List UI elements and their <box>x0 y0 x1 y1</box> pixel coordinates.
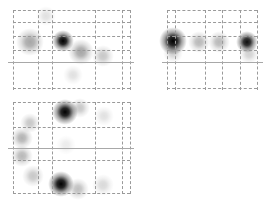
spot <box>16 28 45 57</box>
grid-line-horizontal <box>13 50 130 51</box>
grid-line-horizontal <box>13 10 130 11</box>
grid-line-horizontal <box>167 36 257 37</box>
divider-line <box>8 62 134 63</box>
divider-line <box>8 148 134 149</box>
grid-line-horizontal <box>13 88 130 89</box>
spot <box>68 39 94 65</box>
spot <box>22 165 44 187</box>
grid-line-horizontal <box>167 22 257 23</box>
grid-line-horizontal <box>13 22 130 23</box>
grid-line-vertical <box>130 10 131 90</box>
grid-line-horizontal <box>167 50 257 51</box>
grid-line-horizontal <box>13 160 130 161</box>
spot <box>67 178 89 200</box>
spot <box>56 135 75 154</box>
grid-line-vertical <box>257 10 258 90</box>
panel-c <box>8 100 134 196</box>
panel-b <box>162 8 263 92</box>
grid-line-horizontal <box>13 193 130 194</box>
grid-line-horizontal <box>13 102 130 103</box>
grid-line-horizontal <box>167 88 257 89</box>
grid-line-horizontal <box>167 10 257 11</box>
divider-line <box>162 62 263 63</box>
spot <box>239 44 258 63</box>
panel-a <box>8 8 134 92</box>
spot <box>63 65 82 84</box>
grid-line-horizontal <box>13 36 130 37</box>
spot <box>94 106 113 125</box>
grid-line-horizontal <box>13 127 130 128</box>
